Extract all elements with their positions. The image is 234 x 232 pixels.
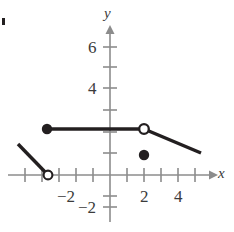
branch-left-descending [18,144,48,175]
closed-endpoint-left [42,124,52,134]
y-tick-label-neg2: −2 [78,199,96,216]
x-tick-label-4: 4 [174,188,183,205]
closed-endpoint-isolated [139,150,149,160]
x-axis [8,168,218,182]
branch-right-descending [144,129,201,153]
y-tick-label-6: 6 [88,39,97,56]
y-axis-label: y [104,6,111,21]
x-tick-label-2: 2 [140,188,149,205]
graph-figure: y x 6 4 −2 −2 2 4 [0,0,234,232]
x-tick-label-neg2: −2 [57,188,75,205]
open-endpoint-left [44,171,53,180]
x-axis-arrowhead [209,171,218,180]
coordinate-plane [0,0,234,232]
y-tick-label-4: 4 [88,80,97,97]
y-axis [103,25,117,222]
y-axis-arrowhead [106,25,115,34]
x-axis-label: x [218,166,225,181]
open-endpoint-right [139,124,149,134]
